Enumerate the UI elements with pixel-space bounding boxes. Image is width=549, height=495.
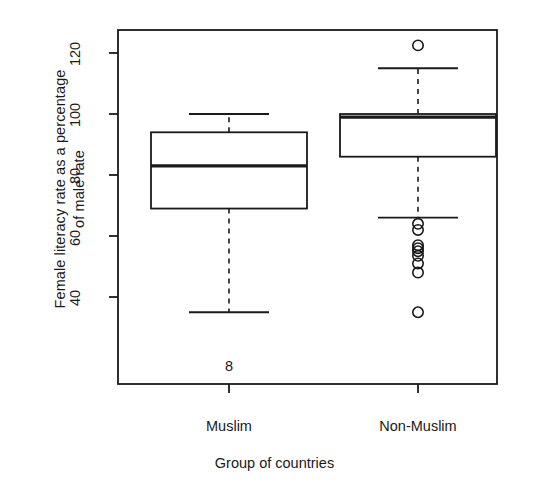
outlier-non-muslim-2 — [413, 225, 423, 235]
muslim-low-annotation: 8 — [199, 358, 259, 374]
x-tick-label-non-muslim: Non-Muslim — [358, 418, 478, 434]
x-tick-label-muslim: Muslim — [169, 418, 289, 434]
outlier-non-muslim-0 — [413, 40, 423, 50]
outlier-non-muslim-9 — [413, 307, 423, 317]
outlier-non-muslim-1 — [413, 219, 423, 229]
chart-root: Female literacy rate as a percentage of … — [0, 0, 549, 495]
box-muslim — [151, 132, 307, 208]
x-axis-title: Group of countries — [0, 455, 549, 471]
box-non-muslim — [340, 114, 496, 157]
